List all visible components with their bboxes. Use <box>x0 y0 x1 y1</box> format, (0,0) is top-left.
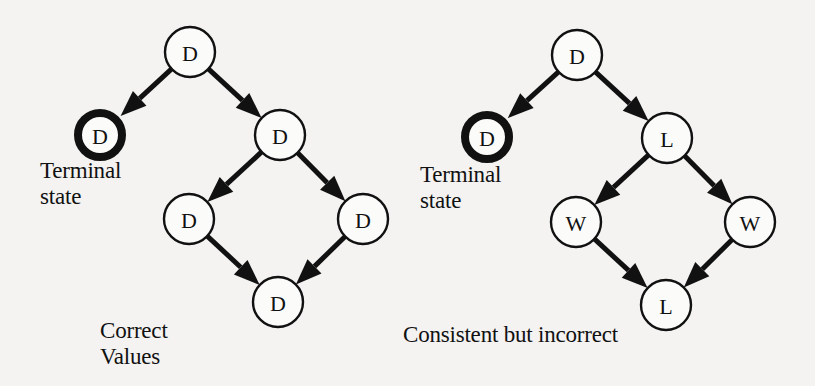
state-node-r-root: D <box>552 30 602 80</box>
terminal-state-node-l-terminal: D <box>78 113 122 157</box>
arrow-shaft <box>594 239 628 270</box>
state-node-r-bottom: L <box>641 280 691 330</box>
edge-arrow-r-mid-to-r-lower-left <box>594 155 648 205</box>
arrow-shaft <box>298 153 328 183</box>
state-node-r-mid: L <box>642 113 692 163</box>
node-value-label: D <box>355 208 371 233</box>
node-value-label: W <box>566 211 587 236</box>
state-node-l-mid: D <box>255 110 305 160</box>
node-value-label: D <box>181 208 197 233</box>
node-value-label: L <box>660 127 673 152</box>
terminal-state-node-r-terminal: D <box>465 115 509 159</box>
arrow-shaft <box>595 72 629 103</box>
arrow-shaft <box>527 72 559 101</box>
consistent-but-incorrect-caption-line: Consistent but incorrect <box>403 322 618 348</box>
right-terminal-caption-line-2: state <box>420 188 501 214</box>
edge-arrow-l-mid-to-l-lower-left <box>207 152 261 202</box>
edge-arrow-l-mid-to-l-lower-right <box>298 153 346 201</box>
state-node-l-root: D <box>165 27 215 77</box>
arrow-shaft <box>208 69 242 100</box>
edge-arrow-r-lower-left-to-r-bottom <box>594 239 647 288</box>
edge-arrow-l-lower-right-to-l-bottom <box>296 236 345 284</box>
left-terminal-caption-line-1: Terminal <box>40 158 121 184</box>
node-value-label: D <box>569 44 585 69</box>
node-value-label: D <box>182 41 198 66</box>
correct-values-caption-line-2: Values <box>100 344 168 370</box>
state-node-r-lower-right: W <box>725 197 775 247</box>
arrow-shaft <box>314 236 345 266</box>
consistent-but-incorrect-caption: Consistent but incorrect <box>403 322 618 348</box>
arrow-shaft <box>226 152 261 184</box>
right-terminal-caption-line-1: Terminal <box>420 162 501 188</box>
node-value-label: L <box>659 294 672 319</box>
arrow-shaft <box>207 236 240 267</box>
arrow-shaft <box>702 240 732 270</box>
edge-arrow-r-root-to-r-terminal <box>508 72 559 118</box>
correct-values-caption-line-1: Correct <box>100 318 168 344</box>
left-terminal-caption-line-2: state <box>40 184 121 210</box>
state-node-l-lower-left: D <box>164 194 214 244</box>
state-node-l-lower-right: D <box>338 194 388 244</box>
left-terminal-state-caption: Terminal state <box>40 158 121 210</box>
state-node-l-bottom: D <box>253 277 303 327</box>
edge-arrow-r-lower-right-to-r-bottom <box>684 240 732 288</box>
edge-arrow-l-lower-left-to-l-bottom <box>207 236 259 285</box>
edge-arrow-l-root-to-l-mid <box>208 69 261 118</box>
node-value-label: D <box>92 124 108 149</box>
node-value-label: W <box>740 211 761 236</box>
arrow-shaft <box>685 156 715 186</box>
edge-arrow-r-mid-to-r-lower-right <box>685 156 733 204</box>
edge-arrow-r-root-to-r-mid <box>595 72 648 121</box>
right-terminal-state-caption: Terminal state <box>420 162 501 214</box>
correct-values-caption: Correct Values <box>100 318 168 370</box>
edge-arrow-l-root-to-l-terminal <box>121 69 172 116</box>
node-value-label: D <box>270 291 286 316</box>
node-value-label: D <box>479 126 495 151</box>
node-value-label: D <box>272 124 288 149</box>
state-node-r-lower-left: W <box>551 197 601 247</box>
arrow-shaft <box>140 69 172 98</box>
arrow-shaft <box>613 155 648 187</box>
